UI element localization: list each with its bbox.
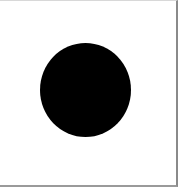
canvas [0, 0, 190, 191]
black-circle-shape [40, 43, 131, 137]
